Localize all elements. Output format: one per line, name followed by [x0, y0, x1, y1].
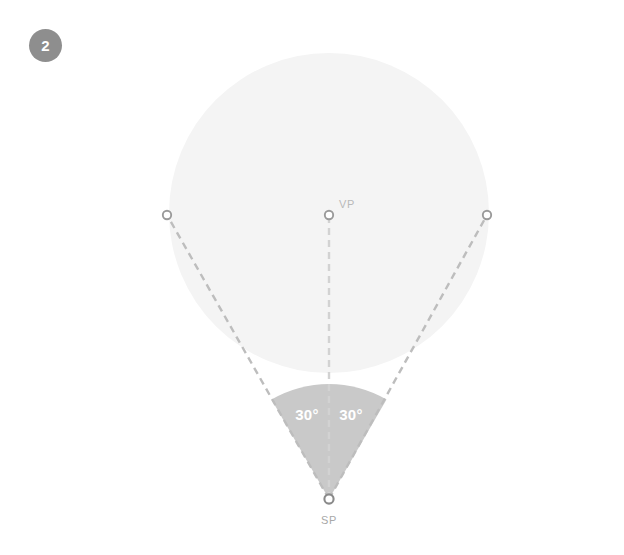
perspective-diagram: VP SP 30° 30°	[0, 0, 624, 555]
step-number-badge: 2	[29, 29, 62, 62]
angle-label-right: 30°	[339, 406, 363, 423]
vanishing-point-marker[interactable]	[325, 211, 333, 219]
diagram-canvas: VP SP 30° 30° 2	[0, 0, 624, 555]
left-point-marker[interactable]	[163, 211, 171, 219]
station-point-label: SP	[321, 514, 337, 526]
angle-label-left: 30°	[295, 406, 319, 423]
station-point-marker[interactable]	[324, 494, 333, 503]
right-point-marker[interactable]	[483, 211, 491, 219]
vanishing-point-label: VP	[339, 198, 355, 210]
